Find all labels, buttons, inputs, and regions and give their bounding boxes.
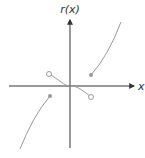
y-axis-label: r(x): [60, 3, 80, 16]
middle-branch-open-circle-right: [89, 95, 94, 100]
left-branch-closed-dot: [48, 94, 52, 98]
middle-branch-open-circle-left: [47, 72, 52, 77]
left-branch-curve: [20, 96, 50, 149]
right-branch-curve: [91, 22, 121, 75]
x-axis-label: x: [137, 80, 145, 93]
right-branch-closed-dot: [89, 73, 93, 77]
piecewise-function-graph: r(x) x: [0, 0, 145, 158]
